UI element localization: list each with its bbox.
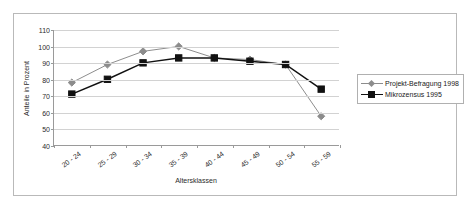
data-point-marker xyxy=(175,55,181,61)
y-tick-label: 100 xyxy=(38,43,50,50)
x-tick-mark xyxy=(304,145,305,148)
legend-marker-1 xyxy=(368,91,375,98)
gridline xyxy=(54,113,339,114)
y-tick-mark xyxy=(51,96,54,97)
plot-area: 40506070809010011020 - 2425 - 2930 - 343… xyxy=(53,30,339,146)
y-tick-label: 60 xyxy=(42,109,50,116)
x-tick-label: 35 - 39 xyxy=(158,150,190,176)
y-axis-title: Anteile in Prozent xyxy=(20,30,32,146)
y-tick-mark xyxy=(51,30,54,31)
legend-key-square-icon xyxy=(361,90,383,99)
x-tick-mark xyxy=(233,145,234,148)
data-point-marker xyxy=(104,61,111,68)
x-tick-label: 40 - 44 xyxy=(193,150,225,176)
gridline xyxy=(54,30,339,31)
legend-key-diamond-icon xyxy=(361,79,383,88)
y-tick-mark xyxy=(51,129,54,130)
x-axis-title: Altersklassen xyxy=(53,177,339,184)
y-tick-label: 50 xyxy=(42,126,50,133)
gridline xyxy=(54,96,339,97)
gridline xyxy=(54,63,339,64)
y-tick-mark xyxy=(51,113,54,114)
y-tick-mark xyxy=(51,47,54,48)
y-tick-label: 110 xyxy=(39,27,50,34)
data-point-marker xyxy=(318,86,324,92)
x-tick-label: 20 - 24 xyxy=(50,150,82,176)
x-tick-label: 50 - 54 xyxy=(265,150,297,176)
x-tick-mark xyxy=(269,145,270,148)
legend-marker-0 xyxy=(368,80,375,87)
data-point-marker xyxy=(139,48,146,55)
legend-item-projekt-befragung: Projekt-Befragung 1998 xyxy=(361,78,459,89)
data-point-marker xyxy=(211,55,217,61)
y-tick-label: 40 xyxy=(42,143,50,150)
chart-figure: Anteile in Prozent 40506070809010011020 … xyxy=(13,13,457,196)
y-tick-label: 80 xyxy=(42,76,50,83)
gridline xyxy=(54,129,339,130)
legend-item-mikrozensus: Mikrozensus 1995 xyxy=(361,89,459,100)
x-tick-label: 30 - 34 xyxy=(122,150,154,176)
y-tick-label: 70 xyxy=(42,93,50,100)
y-tick-mark xyxy=(51,80,54,81)
x-tick-mark xyxy=(54,145,55,148)
chart-legend: Projekt-Befragung 1998 Mikrozensus 1995 xyxy=(357,74,464,104)
x-tick-mark xyxy=(90,145,91,148)
legend-label-0: Projekt-Befragung 1998 xyxy=(383,80,459,87)
y-tick-mark xyxy=(51,63,54,64)
x-tick-mark xyxy=(340,145,341,148)
gridline xyxy=(54,47,339,48)
x-axis-title-label: Altersklassen xyxy=(175,177,217,184)
gridline xyxy=(54,80,339,81)
x-tick-mark xyxy=(161,145,162,148)
y-axis-title-label: Anteile in Prozent xyxy=(23,61,30,116)
x-tick-label: 45 - 49 xyxy=(229,150,261,176)
y-tick-label: 90 xyxy=(42,60,50,67)
legend-label-1: Mikrozensus 1995 xyxy=(383,91,442,98)
x-tick-mark xyxy=(126,145,127,148)
x-tick-label: 55 - 59 xyxy=(301,150,333,176)
x-tick-mark xyxy=(197,145,198,148)
x-tick-label: 25 - 29 xyxy=(86,150,118,176)
